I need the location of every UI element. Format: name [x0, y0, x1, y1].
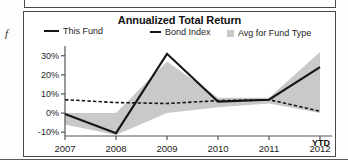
svg-text:2008: 2008 — [105, 143, 126, 154]
svg-text:2011: 2011 — [259, 143, 279, 154]
plot-area: 30%20%10%0%-10% 200720082009201020112012 — [24, 12, 337, 158]
svg-text:30%: 30% — [41, 51, 59, 61]
top-partial-box — [24, 0, 336, 8]
avg-for-fund-type-band — [65, 52, 320, 135]
chart-panel: Annualized Total Return This Fund Bond I… — [23, 11, 336, 157]
svg-text:10%: 10% — [41, 89, 59, 99]
svg-text:20%: 20% — [41, 70, 59, 80]
x-axis-tick-labels: 200720082009201020112012 — [54, 143, 330, 154]
margin-glyph: f — [5, 28, 8, 39]
bottom-partial-rule — [0, 159, 348, 167]
svg-text:2007: 2007 — [54, 143, 75, 154]
chart-svg: 30%20%10%0%-10% 200720082009201020112012 — [24, 12, 337, 158]
y-axis-tick-labels: 30%20%10%0%-10% — [38, 51, 59, 137]
band-polygon — [65, 52, 320, 135]
svg-text:0%: 0% — [46, 108, 59, 118]
svg-text:2010: 2010 — [207, 143, 228, 154]
svg-text:2009: 2009 — [156, 143, 177, 154]
x-axis-ytd-label: YTD — [312, 138, 330, 148]
svg-text:-10%: -10% — [38, 127, 59, 137]
page-root: f Annualized Total Return This Fund Bond… — [0, 0, 348, 167]
